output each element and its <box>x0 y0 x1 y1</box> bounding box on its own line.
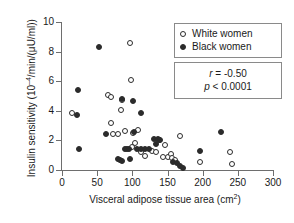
x-tick <box>238 171 239 176</box>
data-point <box>227 149 233 155</box>
x-tick <box>62 171 63 176</box>
x-tick-label: 300 <box>253 178 293 188</box>
legend: White womenBlack women <box>174 23 282 58</box>
data-point <box>127 40 133 46</box>
p-value: < 0.0001 <box>210 81 252 92</box>
x-axis-title-tail: ) <box>237 194 240 205</box>
x-tick <box>132 171 133 176</box>
y-axis-title-exponent: –4 <box>25 77 32 85</box>
data-point <box>76 146 82 152</box>
data-point <box>115 131 121 137</box>
y-axis-title-tail: /min/(μU/ml)) <box>26 19 37 77</box>
data-point <box>197 148 203 154</box>
data-point <box>218 129 224 135</box>
y-tick <box>56 52 61 53</box>
y-tick <box>56 111 61 112</box>
legend-item-white-women: White women <box>180 27 276 40</box>
r-value: = -0.50 <box>213 68 247 79</box>
data-point <box>119 96 125 102</box>
open-circle-icon <box>180 31 186 37</box>
x-axis-title: Visceral adipose tissue area (cm2) <box>40 193 290 205</box>
data-point <box>122 128 128 134</box>
scatter-plot-figure: 0246810 050100150200250300 Insulin sensi… <box>0 0 294 223</box>
x-tick-label: 50 <box>77 178 117 188</box>
correlation-coefficient-line: r = -0.50 <box>175 67 281 80</box>
data-point <box>118 107 124 113</box>
data-point <box>229 161 235 167</box>
y-axis-title-base: Insulin sensitivity (10 <box>26 85 37 177</box>
data-point <box>128 77 134 83</box>
statistics-annotation-box: r = -0.50 p < 0.0001 <box>174 62 282 99</box>
data-point <box>119 158 125 164</box>
x-tick <box>203 171 204 176</box>
filled-circle-icon <box>180 44 186 50</box>
data-point <box>138 110 144 116</box>
data-point <box>131 129 137 135</box>
y-axis-title: Insulin sensitivity (10–4/min/(μU/ml)) <box>25 8 37 188</box>
x-tick <box>273 171 274 176</box>
data-point <box>180 165 186 171</box>
data-point <box>177 133 183 139</box>
legend-item-black-women: Black women <box>180 40 276 53</box>
y-tick <box>56 81 61 82</box>
legend-item-label: White women <box>192 28 253 39</box>
data-point <box>146 146 152 152</box>
data-point <box>142 153 148 159</box>
legend-item-label: Black women <box>192 41 251 52</box>
data-point <box>96 44 102 50</box>
x-tick-label: 100 <box>112 178 152 188</box>
y-tick <box>56 140 61 141</box>
y-tick <box>56 22 61 23</box>
x-tick-label: 200 <box>183 178 223 188</box>
data-point <box>103 131 109 137</box>
data-point <box>74 112 80 118</box>
x-tick-label: 250 <box>218 178 258 188</box>
x-axis-title-base: Visceral adipose tissue area (cm <box>89 194 233 205</box>
x-tick-label: 0 <box>42 178 82 188</box>
data-point <box>126 146 132 152</box>
x-tick-label: 150 <box>148 178 188 188</box>
data-point <box>75 87 81 93</box>
data-point <box>127 156 133 162</box>
data-point <box>130 98 136 104</box>
data-point <box>108 94 114 100</box>
data-point <box>162 142 168 148</box>
p-value-line: p < 0.0001 <box>175 80 281 93</box>
data-point <box>197 159 203 165</box>
data-point <box>153 149 159 155</box>
x-tick <box>168 171 169 176</box>
x-tick <box>97 171 98 176</box>
data-point <box>108 120 114 126</box>
